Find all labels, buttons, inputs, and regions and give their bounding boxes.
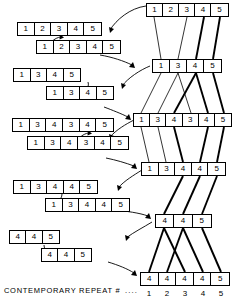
sequence-cell[interactable]: 5 <box>208 163 225 175</box>
sequence-cell[interactable]: 5 <box>111 137 128 149</box>
sequence-cell[interactable]: 4 <box>195 4 211 16</box>
sequence-cell[interactable]: 5 <box>84 23 101 35</box>
sequence-cell[interactable]: 4 <box>80 87 97 99</box>
sequence-cell[interactable]: 4 <box>192 163 209 175</box>
sequence-cell[interactable]: 4 <box>194 273 212 285</box>
sequence-cell[interactable]: 3 <box>63 119 80 131</box>
sequence-cell[interactable]: 3 <box>31 69 48 81</box>
thin-line <box>178 73 191 113</box>
sequence-cell[interactable]: 4 <box>64 181 81 193</box>
right-row-2-sequence[interactable]: 1345 <box>152 59 222 73</box>
sequence-cell[interactable]: 1 <box>14 181 31 193</box>
sequence-cell[interactable]: 5 <box>75 249 91 261</box>
thick-line <box>164 176 183 214</box>
sequence-cell[interactable]: 4 <box>58 249 74 261</box>
sequence-cell[interactable]: 5 <box>112 199 129 211</box>
sequence-cell[interactable]: 4 <box>96 199 113 211</box>
sequence-cell[interactable]: 1 <box>14 69 31 81</box>
sequence-cell[interactable]: 5 <box>96 119 113 131</box>
sequence-cell[interactable]: 1 <box>13 119 30 131</box>
left-pair-2-bottom-sequence[interactable]: 1345 <box>46 86 114 100</box>
sequence-cell[interactable]: 4 <box>175 163 192 175</box>
sequence-cell[interactable]: 3 <box>183 114 199 126</box>
sequence-cell[interactable]: 4 <box>47 69 64 81</box>
sequence-cell[interactable]: 4 <box>46 119 63 131</box>
sequence-cell[interactable]: 5 <box>80 181 97 193</box>
sequence-cell[interactable]: 5 <box>43 231 59 243</box>
right-row-1-sequence[interactable]: 12345 <box>146 3 229 17</box>
sequence-cell[interactable]: 4 <box>141 273 159 285</box>
sequence-cell[interactable]: 2 <box>54 41 71 53</box>
sequence-cell[interactable]: 1 <box>18 23 35 35</box>
left-pair-5-bottom-sequence[interactable]: 445 <box>41 248 92 262</box>
sequence-cell[interactable]: 4 <box>174 215 192 227</box>
right-row-3-sequence[interactable]: 134345 <box>133 113 232 127</box>
sequence-cell[interactable]: 4 <box>87 41 104 53</box>
sequence-cell[interactable]: 2 <box>35 23 52 35</box>
descent-lines-2-3 <box>141 73 224 113</box>
sequence-cell[interactable]: 1 <box>46 199 63 211</box>
sequence-cell[interactable]: 4 <box>176 273 194 285</box>
sequence-cell[interactable]: 4 <box>79 199 96 211</box>
sequence-cell[interactable]: 4 <box>26 231 42 243</box>
sequence-cell[interactable]: 1 <box>47 87 64 99</box>
sequence-cell[interactable]: 4 <box>166 114 182 126</box>
descent-lines-5-6 <box>149 228 221 272</box>
sequence-cell[interactable]: 3 <box>170 60 187 72</box>
sequence-cell[interactable]: 5 <box>64 69 80 81</box>
thick-line <box>164 228 185 272</box>
sequence-cell[interactable]: 4 <box>68 23 85 35</box>
right-row-5-sequence[interactable]: 445 <box>155 214 212 228</box>
sequence-cell[interactable]: 4 <box>199 114 215 126</box>
sequence-cell[interactable]: 5 <box>211 273 229 285</box>
left-pair-3-top-sequence[interactable]: 134345 <box>12 118 114 132</box>
sequence-cell[interactable]: 1 <box>28 137 45 149</box>
sequence-cell[interactable]: 3 <box>64 87 81 99</box>
right-row-4-sequence[interactable]: 13445 <box>141 162 226 176</box>
sequence-cell[interactable]: 4 <box>95 137 112 149</box>
left-pair-1-bottom-sequence[interactable]: 12345 <box>36 40 121 54</box>
sequence-cell[interactable]: 5 <box>204 60 221 72</box>
sequence-cell[interactable]: 4 <box>47 181 64 193</box>
sequence-cell[interactable]: 3 <box>31 181 48 193</box>
sequence-cell[interactable]: 4 <box>42 249 58 261</box>
sequence-cell[interactable]: 1 <box>37 41 54 53</box>
sequence-cell[interactable]: 5 <box>193 215 211 227</box>
left-pair-4-bottom-sequence[interactable]: 13445 <box>45 198 130 212</box>
sequence-cell[interactable]: 3 <box>63 199 80 211</box>
axis-tick-3: 3 <box>176 289 194 298</box>
sequence-cell[interactable]: 3 <box>150 114 166 126</box>
sequence-cell[interactable]: 2 <box>163 4 179 16</box>
sequence-cell[interactable]: 1 <box>147 4 163 16</box>
sequence-cell[interactable]: 3 <box>30 119 47 131</box>
sequence-cell[interactable]: 3 <box>70 41 87 53</box>
left-pair-4-top-sequence[interactable]: 13445 <box>13 180 98 194</box>
sequence-cell[interactable]: 4 <box>159 273 177 285</box>
cross-arrow-4 <box>104 107 128 117</box>
sequence-cell[interactable]: 3 <box>179 4 195 16</box>
sequence-cell[interactable]: 4 <box>187 60 204 72</box>
sequence-cell[interactable]: 5 <box>215 114 231 126</box>
sequence-cell[interactable]: 4 <box>80 119 97 131</box>
figure-canvas: 12345 12345 1345 1345 134345 134345 1344… <box>0 0 236 299</box>
sequence-cell[interactable]: 4 <box>61 137 78 149</box>
sequence-cell[interactable]: 1 <box>153 60 170 72</box>
left-pair-3-bottom-sequence[interactable]: 134345 <box>27 136 129 150</box>
right-row-6-sequence[interactable]: 44445 <box>140 272 230 286</box>
sequence-cell[interactable]: 3 <box>159 163 176 175</box>
sequence-cell[interactable]: 3 <box>51 23 68 35</box>
sequence-cell[interactable]: 3 <box>45 137 62 149</box>
sequence-cell[interactable]: 5 <box>97 87 113 99</box>
sequence-cell[interactable]: 1 <box>134 114 150 126</box>
sequence-cell[interactable]: 3 <box>78 137 95 149</box>
axis-caption-label: CONTEMPORARY REPEAT # <box>4 286 120 295</box>
sequence-cell[interactable]: 4 <box>156 215 174 227</box>
sequence-cell[interactable]: 1 <box>142 163 159 175</box>
left-pair-2-top-sequence[interactable]: 1345 <box>13 68 81 82</box>
left-pair-1-top-sequence[interactable]: 12345 <box>17 22 102 36</box>
sequence-cell[interactable]: 5 <box>103 41 120 53</box>
axis-tick-1: 1 <box>140 289 158 298</box>
sequence-cell[interactable]: 4 <box>10 231 26 243</box>
left-pair-5-top-sequence[interactable]: 445 <box>9 230 60 244</box>
sequence-cell[interactable]: 5 <box>211 4 227 16</box>
